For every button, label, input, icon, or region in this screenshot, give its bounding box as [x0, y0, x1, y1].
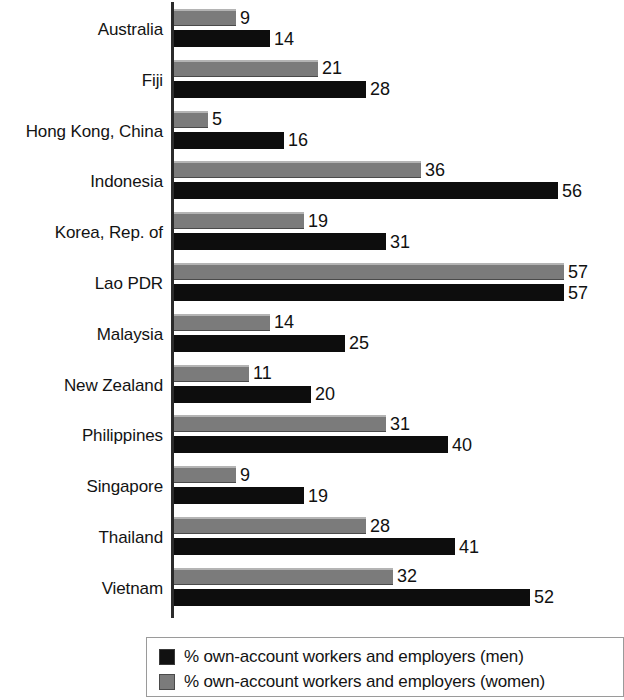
category-label: Indonesia [0, 160, 168, 204]
category-label: Hong Kong, China [0, 110, 168, 154]
bar-value-label: 52 [530, 587, 554, 608]
bar-rect-women [174, 9, 236, 26]
bar-rect-men [174, 81, 366, 98]
chart-row: New Zealand1120 [0, 364, 609, 408]
chart-row: Philippines3140 [0, 414, 609, 458]
bar-rect-women [174, 111, 208, 128]
bar-rect-women [174, 466, 236, 483]
bar-value-label: 40 [448, 434, 472, 455]
bar-value-label: 31 [386, 413, 410, 434]
chart-row: Australia914 [0, 8, 609, 52]
category-label: Lao PDR [0, 262, 168, 306]
bar-value-label: 57 [564, 261, 588, 282]
bar-rect-men [174, 589, 530, 606]
chart-row: Vietnam3252 [0, 567, 609, 611]
category-label: Philippines [0, 414, 168, 458]
bar-rect-men [174, 386, 311, 403]
chart-legend: % own-account workers and employers (men… [146, 637, 624, 697]
bar-value-label: 56 [558, 180, 582, 201]
bar-value-label: 41 [455, 536, 479, 557]
category-label: Korea, Rep. of [0, 211, 168, 255]
chart-row: Fiji2128 [0, 59, 609, 103]
bar-rect-men [174, 487, 304, 504]
bar-rect-men [174, 233, 386, 250]
chart-row: Hong Kong, China516 [0, 110, 609, 154]
bar-value-label: 9 [236, 7, 250, 28]
legend-item-men: % own-account workers and employers (men… [159, 644, 623, 669]
chart-row: Singapore919 [0, 465, 609, 509]
bar-rect-women [174, 415, 386, 432]
bar-value-label: 20 [311, 384, 335, 405]
legend-label-men: % own-account workers and employers (men… [184, 647, 524, 667]
bar-value-label: 28 [366, 515, 390, 536]
category-label: Malaysia [0, 313, 168, 357]
bar-value-label: 19 [304, 210, 328, 231]
bar-value-label: 36 [421, 159, 445, 180]
category-label: Fiji [0, 59, 168, 103]
bar-rect-men [174, 538, 455, 555]
bar-value-label: 5 [208, 109, 222, 130]
bar-rect-women [174, 517, 366, 534]
bar-rect-men [174, 436, 448, 453]
bar-rect-women [174, 161, 421, 178]
category-label: Singapore [0, 465, 168, 509]
bar-rect-women [174, 60, 318, 77]
bar-rect-women [174, 212, 304, 229]
bar-rect-women [174, 365, 249, 382]
bar-value-label: 57 [564, 282, 588, 303]
bar-rect-men [174, 30, 270, 47]
bar-value-label: 14 [270, 312, 294, 333]
chart-row: Indonesia3656 [0, 160, 609, 204]
chart-row: Thailand2841 [0, 516, 609, 560]
legend-label-women: % own-account workers and employers (wom… [184, 672, 545, 692]
bar-value-label: 25 [345, 333, 369, 354]
bar-value-label: 16 [284, 130, 308, 151]
bar-rect-women [174, 568, 393, 585]
legend-item-women: % own-account workers and employers (wom… [159, 669, 623, 694]
chart-row: Malaysia1425 [0, 313, 609, 357]
bar-rect-men [174, 284, 564, 301]
bar-value-label: 11 [249, 363, 272, 384]
bar-rect-women [174, 314, 270, 331]
bar-rect-women [174, 263, 564, 280]
bar-value-label: 28 [366, 79, 390, 100]
legend-swatch-women-icon [159, 674, 175, 690]
legend-swatch-men-icon [159, 649, 175, 665]
category-label: Vietnam [0, 567, 168, 611]
chart-row: Lao PDR5757 [0, 262, 609, 306]
bar-value-label: 32 [393, 566, 417, 587]
category-label: New Zealand [0, 364, 168, 408]
bar-value-label: 14 [270, 28, 294, 49]
chart-row: Korea, Rep. of1931 [0, 211, 609, 255]
bar-value-label: 19 [304, 485, 328, 506]
bar-rect-men [174, 182, 558, 199]
category-label: Thailand [0, 516, 168, 560]
bar-rect-men [174, 335, 345, 352]
bar-value-label: 21 [318, 58, 342, 79]
category-label: Australia [0, 8, 168, 52]
bar-value-label: 31 [386, 231, 410, 252]
plot-area: Australia914Fiji2128Hong Kong, China516I… [0, 0, 609, 620]
bar-value-label: 9 [236, 464, 250, 485]
bar-rect-men [174, 132, 284, 149]
